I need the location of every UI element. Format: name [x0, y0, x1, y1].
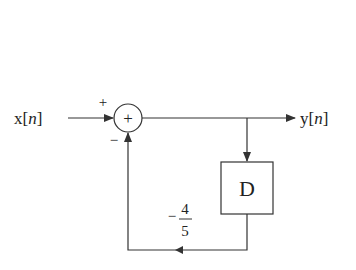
summing-junction: +: [114, 104, 142, 132]
feedback-arrowhead: [175, 246, 183, 254]
summer-symbol: +: [123, 109, 133, 128]
gain-sign: −: [168, 208, 176, 224]
input-label: x[n]: [14, 109, 42, 128]
minus-sign: −: [110, 132, 118, 148]
gain-denominator: 5: [181, 223, 189, 239]
feedback-gain: − 4 5: [168, 201, 192, 239]
plus-sign: +: [99, 94, 107, 110]
output-label: y[n]: [300, 109, 328, 128]
gain-numerator: 4: [181, 201, 189, 217]
block-diagram: x[n] + + − y[n] D − 4 5: [0, 0, 356, 270]
delay-label: D: [239, 176, 255, 201]
delay-block: D: [221, 162, 273, 214]
